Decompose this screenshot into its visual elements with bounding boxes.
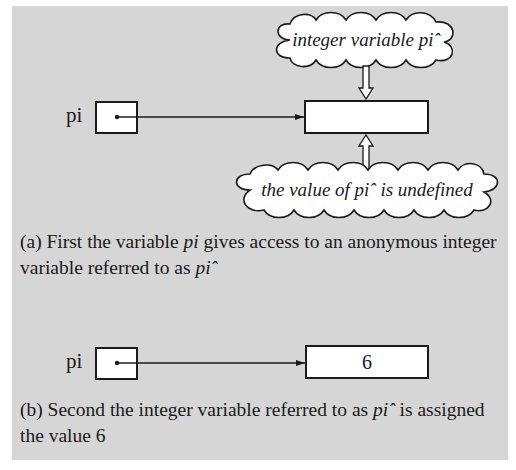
caption-a-italic-pi: pi — [184, 231, 199, 252]
caption-a: (a) First the variable pi gives access t… — [20, 229, 500, 281]
caption-b-prefix: (b) Second the integer variable referred… — [20, 399, 373, 420]
caption-b-italic-pi-caret: piˆ — [373, 399, 395, 420]
hollow-arrow-down — [359, 66, 373, 99]
cloud-top-text: integer variable piˆ — [292, 29, 441, 50]
cloud-bottom-annotation: the value of piˆ is undefined — [237, 163, 498, 218]
pointer-arrow-a — [115, 115, 304, 119]
cloud-top-annotation: integer variable piˆ — [277, 13, 454, 68]
caption-a-italic-pi-caret: piˆ — [195, 257, 217, 278]
caption-b: (b) Second the integer variable referred… — [20, 397, 500, 449]
pointer-arrow-b — [115, 361, 305, 365]
caption-a-prefix: (a) First the variable — [20, 231, 184, 252]
cloud-bottom-text: the value of piˆ is undefined — [261, 179, 473, 200]
